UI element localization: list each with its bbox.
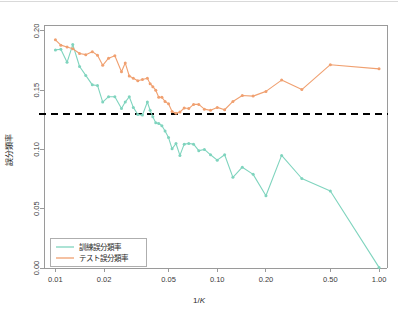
data-point	[329, 63, 332, 66]
data-point	[203, 108, 206, 111]
data-point	[209, 153, 212, 156]
data-point	[378, 266, 381, 269]
data-point	[192, 103, 195, 106]
data-point	[113, 95, 116, 98]
data-point	[132, 106, 135, 109]
data-point	[241, 166, 244, 169]
x-axis-title: 1/K	[193, 296, 206, 305]
data-point	[59, 44, 62, 47]
data-point	[197, 149, 200, 152]
data-point	[178, 111, 181, 114]
x-tick-label: 0.05	[161, 275, 176, 284]
data-point	[84, 74, 87, 77]
data-point	[197, 103, 200, 106]
data-point	[160, 96, 163, 99]
data-point	[154, 121, 157, 124]
x-tick-label: 0.02	[97, 275, 112, 284]
legend-label-2: テスト誤分類率	[79, 253, 129, 263]
data-point	[280, 79, 283, 82]
data-point	[183, 106, 186, 109]
y-tick-label: 0.20	[32, 24, 41, 39]
data-point	[174, 112, 177, 115]
data-point	[192, 143, 195, 146]
data-point	[113, 54, 116, 57]
data-point	[231, 100, 234, 103]
chart-legend: 訓練誤分類率テスト誤分類率	[50, 238, 146, 266]
data-point	[167, 102, 170, 105]
data-point	[141, 114, 144, 117]
data-point	[223, 153, 226, 156]
data-point	[187, 107, 190, 110]
data-point	[91, 50, 94, 53]
data-point	[107, 95, 110, 98]
data-point	[187, 142, 190, 145]
data-point	[101, 101, 104, 104]
data-point	[136, 113, 139, 116]
data-point	[120, 70, 123, 73]
x-tick-label: 0.10	[210, 275, 225, 284]
data-point	[132, 77, 135, 80]
data-point	[223, 108, 226, 111]
data-point	[209, 109, 212, 112]
data-point	[141, 78, 144, 81]
data-point	[107, 57, 110, 60]
x-tick-label: 0.01	[48, 275, 63, 284]
data-point	[96, 54, 99, 57]
data-point	[71, 43, 74, 46]
data-point	[300, 88, 303, 91]
data-point	[146, 101, 149, 104]
data-point	[329, 189, 332, 192]
data-point	[167, 136, 170, 139]
data-point	[66, 61, 69, 64]
data-point	[264, 90, 267, 93]
data-point	[84, 53, 87, 56]
data-point	[120, 107, 123, 110]
data-point	[216, 159, 219, 162]
data-point	[151, 115, 154, 118]
data-point	[378, 67, 381, 70]
misclassification-rate-chart: 0.010.020.050.100.200.501.00 0.000.050.1…	[0, 0, 398, 318]
data-point	[241, 94, 244, 97]
y-tick-label: 0.10	[32, 142, 41, 157]
data-point	[174, 142, 177, 145]
data-point	[164, 100, 167, 103]
data-point	[59, 48, 62, 51]
y-tick-label: 0.15	[32, 83, 41, 98]
data-point	[91, 83, 94, 86]
data-point	[78, 52, 81, 55]
data-point	[160, 124, 163, 127]
data-point	[128, 74, 131, 77]
data-point	[71, 47, 74, 50]
data-point	[171, 110, 174, 113]
data-point	[54, 38, 57, 41]
legend-label-1: 訓練誤分類率	[79, 242, 122, 252]
y-tick-label: 0.05	[32, 201, 41, 216]
data-point	[149, 82, 152, 85]
data-point	[136, 79, 139, 82]
data-point	[154, 89, 157, 92]
x-tick-label: 1.00	[372, 275, 387, 284]
chart-figure: 0.010.020.050.100.200.501.00 0.000.050.1…	[0, 0, 398, 318]
y-axis-title: 誤分類率	[4, 134, 14, 166]
data-point	[252, 173, 255, 176]
data-point	[78, 65, 81, 68]
data-point	[252, 95, 255, 98]
y-tick-label: 0.00	[32, 261, 41, 276]
chart-background	[0, 0, 398, 318]
data-point	[280, 154, 283, 157]
data-point	[146, 77, 149, 80]
data-point	[171, 147, 174, 150]
data-point	[149, 109, 152, 112]
data-point	[54, 48, 57, 51]
data-point	[124, 101, 127, 104]
data-point	[96, 84, 99, 87]
data-point	[124, 61, 127, 64]
data-point	[128, 95, 131, 98]
data-point	[216, 106, 219, 109]
data-point	[264, 194, 267, 197]
data-point	[66, 45, 69, 48]
data-point	[157, 96, 160, 99]
x-tick-label: 0.20	[259, 275, 274, 284]
data-point	[157, 122, 160, 125]
data-point	[101, 64, 104, 67]
